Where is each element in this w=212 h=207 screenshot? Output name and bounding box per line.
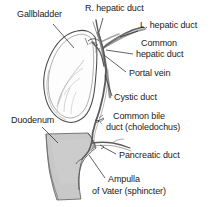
label-l-hepatic-duct: L. hepatic duct	[140, 20, 197, 30]
leader-common-hepatic-duct	[106, 50, 133, 54]
leader-r-hepatic-duct	[99, 18, 103, 32]
label-r-hepatic-duct: R. hepatic duct	[85, 3, 144, 13]
leader-pancreatic-duct	[103, 147, 116, 154]
label-common-hepatic-duct-line1: Common	[141, 38, 177, 48]
label-common-bile-duct-line1: Common bile	[113, 111, 165, 121]
label-duodenum: Duodenum	[11, 115, 54, 125]
label-common-hepatic-duct-line2: hepatic duct	[136, 49, 183, 59]
label-cystic-duct: Cystic duct	[114, 92, 157, 102]
anatomy-figure: Gallbladder R. hepatic duct L. hepatic d…	[0, 0, 212, 207]
duodenum-shape	[46, 133, 96, 200]
label-pancreatic-duct: Pancreatic duct	[119, 150, 180, 160]
leader-ampulla	[89, 155, 105, 178]
label-common-bile-duct-line2: duct (choledochus)	[106, 122, 180, 132]
label-gallbladder: Gallbladder	[17, 9, 62, 19]
anatomy-illustration	[0, 0, 212, 207]
label-portal-vein: Portal vein	[129, 68, 170, 78]
label-ampulla-line1: Ampulla	[108, 174, 140, 184]
label-ampulla-line2: of Vater (sphincter)	[92, 186, 166, 196]
